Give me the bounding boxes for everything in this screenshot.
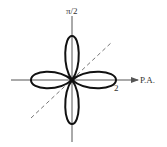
polar-rose-diagram: π/2 P.A. 2 <box>0 0 167 147</box>
origin-point <box>70 78 75 83</box>
vertical-axis-label: π/2 <box>66 6 78 16</box>
radius-tick-label: 2 <box>114 83 119 93</box>
polar-axis-label: P.A. <box>140 75 155 85</box>
